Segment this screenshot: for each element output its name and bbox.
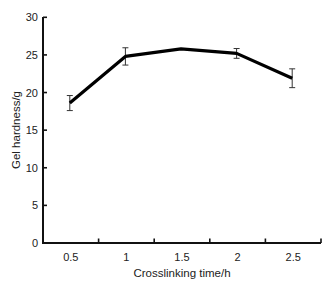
x-tick-label: 2.5 <box>286 251 301 263</box>
x-tick-label: 1 <box>123 251 129 263</box>
y-tick-label: 20 <box>26 87 38 99</box>
y-tick-label: 25 <box>26 49 38 61</box>
x-axis-title: Crosslinking time/h <box>133 267 230 279</box>
x-tick-label: 0.5 <box>63 251 78 263</box>
x-tick-label: 2 <box>235 251 241 263</box>
y-tick-label: 0 <box>32 237 38 249</box>
y-tick-label: 30 <box>26 11 38 23</box>
y-tick-label: 5 <box>32 199 38 211</box>
data-line <box>70 49 292 103</box>
x-tick-label: 1.5 <box>174 251 189 263</box>
y-axis-title: Gel hardness/g <box>10 91 22 169</box>
y-tick-label: 15 <box>26 124 38 136</box>
y-tick-label: 10 <box>26 162 38 174</box>
line-chart: 051015202530 0.511.522.5 Crosslinking ti… <box>0 0 329 288</box>
error-bars <box>67 48 295 111</box>
